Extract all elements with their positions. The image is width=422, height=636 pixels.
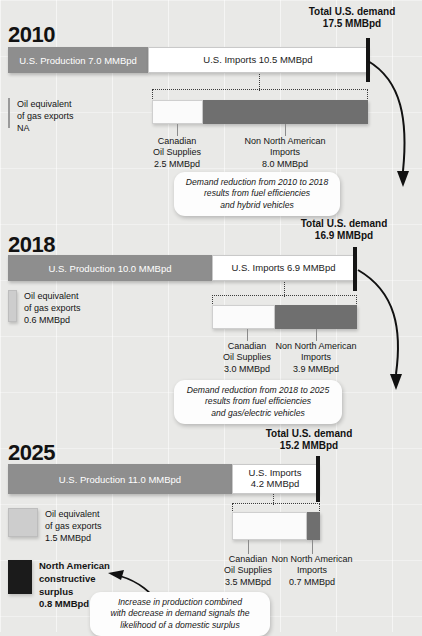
demand-label-2025: Total U.S. demand 15.2 MMBpd [243,428,375,452]
gas-exports-legend-2025: Oil equivalent of gas exports 1.5 MMBpd [8,508,126,544]
gas-legend-l1-2025: Oil equivalent [45,508,102,520]
demand-title-2018: Total U.S. demand [278,218,410,230]
non-north-american-bar-2018[interactable] [275,305,357,329]
non-na-label-2025: Non North American Imports 0.7 MMBpd [254,554,370,588]
canadian-label-l2-2010: Oil Supplies [137,147,217,158]
imports-label-2018: U.S. Imports 6.9 MMBpd [231,263,335,274]
leader-canadian-2025 [248,540,249,554]
callout-1-line1: Demand reduction from 2018 to 2025 [182,385,334,396]
callout-surplus: Increase in production combined with dec… [90,592,270,636]
leader-non-na-2018 [316,329,317,341]
canadian-value-2010: 2.5 MMBpd [137,159,217,170]
arrow-2018-to-2025 [348,262,416,412]
non-na-label-l1-2010: Non North American [227,136,343,147]
production-bar-2010[interactable]: U.S. Production 7.0 MMBpd [8,47,148,73]
gas-legend-l2-2018: of gas exports [24,302,81,314]
demand-value-2018: 16.9 MMBpd [278,230,410,242]
callout-2010-2018: Demand reduction from 2010 to 2018 resul… [174,172,340,216]
production-bar-2025[interactable]: U.S. Production 11.0 MMBpd [8,464,232,494]
surplus-l1: North American [39,560,110,573]
demand-label-2010: Total U.S. demand 17.5 MMBpd [286,6,418,30]
non-na-label-l1-2018: Non North American [258,341,374,352]
gas-legend-l1-2018: Oil equivalent [24,290,81,302]
imports-bar-2010[interactable]: U.S. Imports 10.5 MMBpd [148,47,368,73]
callout-2018-2025: Demand reduction from 2018 to 2025 resul… [174,380,342,424]
callout-1-line2: results from fuel efficiencies [182,396,334,407]
callout-2-line2: with decrease in demand signals the [98,608,262,619]
canadian-bar-2010[interactable] [152,100,203,124]
non-north-american-bar-2025[interactable] [307,512,320,540]
non-na-label-l2-2010: Imports [227,147,343,158]
non-na-label-2010: Non North American Imports 8.0 MMBpd [227,136,343,170]
callout-2-line1: Increase in production combined [98,597,262,608]
leader-non-na-2010 [285,124,286,136]
canadian-bar-2025[interactable] [232,512,307,540]
leader-non-na-2025 [312,540,313,554]
demand-value-2010: 17.5 MMBpd [286,18,418,30]
gas-exports-legend-2018: Oil equivalent of gas exports 0.6 MMBpd [8,290,118,326]
surplus-l2: constructive [39,573,110,586]
gas-exports-text-2010: Oil equivalent of gas exports NA [17,98,74,134]
gas-legend-value-2018: 0.6 MMBpd [24,314,81,326]
surplus-swatch-2025 [8,560,32,594]
callout-0-line3: and hybrid vehicles [182,200,332,211]
imports-bar-2018[interactable]: U.S. Imports 6.9 MMBpd [212,255,355,281]
production-bar-2018[interactable]: U.S. Production 10.0 MMBpd [8,255,212,281]
gas-legend-l2-2010: of gas exports [17,110,74,122]
imports-bar-2025[interactable]: U.S. Imports 4.2 MMBpd [232,464,318,494]
demand-title-2025: Total U.S. demand [243,428,375,440]
canadian-label-l1-2010: Canadian [137,136,217,147]
year-label-2010: 2010 [8,22,55,48]
non-na-label-l2-2018: Imports [258,352,374,363]
leader-canadian-2018 [247,329,248,341]
canadian-label-2010: Canadian Oil Supplies 2.5 MMBpd [137,136,217,170]
non-na-value-2010: 8.0 MMBpd [227,159,343,170]
gas-exports-swatch-2025 [8,508,38,537]
imports-label-l2-2025: 4.2 MMBpd [249,479,302,490]
gas-legend-value-2025: 1.5 MMBpd [45,532,102,544]
gas-exports-legend-2010: Oil equivalent of gas exports NA [8,98,118,134]
callout-2-line3: likelihood of a domestic surplus [98,620,262,631]
year-label-2025: 2025 [8,440,55,466]
non-na-label-l2-2025: Imports [254,565,370,576]
gas-exports-swatch-2018 [8,290,17,322]
imports-label-2010: U.S. Imports 10.5 MMBpd [203,55,312,66]
gas-exports-swatch-2010 [8,98,10,128]
gas-legend-l1-2010: Oil equivalent [17,98,74,110]
callout-0-line2: results from fuel efficiencies [182,188,332,199]
demand-title-2010: Total U.S. demand [286,6,418,18]
demand-tick-2010 [366,38,370,82]
gas-exports-text-2018: Oil equivalent of gas exports 0.6 MMBpd [24,290,81,326]
non-na-label-l1-2025: Non North American [254,554,370,565]
non-north-american-bar-2010[interactable] [203,100,368,124]
demand-tick-2018 [353,247,357,291]
gas-exports-text-2025: Oil equivalent of gas exports 1.5 MMBpd [45,508,102,544]
non-na-value-2025: 0.7 MMBpd [254,577,370,588]
callout-1-line3: and gas/electric vehicles [182,408,334,419]
leader-canadian-2010 [177,124,178,136]
non-na-value-2018: 3.9 MMBpd [258,364,374,375]
gas-legend-value-2010: NA [17,122,74,134]
demand-label-2018: Total U.S. demand 16.9 MMBpd [278,218,410,242]
gas-legend-l2-2025: of gas exports [45,520,102,532]
demand-tick-2025 [316,456,320,502]
canadian-bar-2018[interactable] [212,305,275,329]
callout-0-line1: Demand reduction from 2010 to 2018 [182,177,332,188]
non-na-label-2018: Non North American Imports 3.9 MMBpd [258,341,374,375]
demand-value-2025: 15.2 MMBpd [243,440,375,452]
